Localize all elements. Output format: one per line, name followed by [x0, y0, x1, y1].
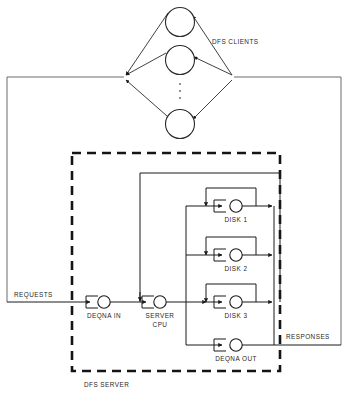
dfs-server-boundary-box	[72, 153, 280, 371]
client-3-to-left-vertex	[126, 80, 167, 116]
client-1-to-left-vertex	[126, 13, 168, 75]
client-ellipsis-icon	[179, 83, 181, 99]
disk-1-label: DISK 1	[225, 216, 248, 223]
dfs-client-node-2[interactable]	[166, 46, 195, 75]
deqna-in-server-circle[interactable]	[98, 296, 110, 308]
client-2-to-left-vertex	[126, 53, 166, 75]
right-vertex-to-client-3	[193, 80, 232, 119]
dfs-server-label: DFS SERVER	[84, 381, 129, 388]
dfs-client-node-3[interactable]	[166, 110, 195, 139]
service-center-server-cpu[interactable]: SERVER CPU	[142, 296, 174, 328]
server-cpu-server-circle[interactable]	[154, 296, 166, 308]
dfs-server-queueing-network-diagram: DFS CLIENTS DFS SERVER REQUESTS DEQNA IN	[0, 0, 349, 405]
service-center-disk-3[interactable]: DISK 3	[206, 284, 272, 319]
server-cpu-label-line2: CPU	[153, 321, 168, 328]
service-center-deqna-in[interactable]: DEQNA IN	[86, 296, 121, 320]
server-cpu-label-line1: SERVER	[146, 312, 175, 319]
dfs-clients-label: DFS CLIENTS	[212, 38, 259, 45]
requests-return-path	[7, 77, 124, 302]
disk-2-server-circle[interactable]	[230, 249, 242, 261]
requests-input-line: REQUESTS	[7, 291, 90, 302]
disk-2-label: DISK 2	[225, 265, 248, 272]
service-center-disk-1[interactable]: DISK 1	[206, 188, 272, 223]
dfs-client-node-1[interactable]	[166, 8, 195, 37]
deqna-out-server-circle[interactable]	[230, 339, 242, 351]
diagram-canvas: DFS CLIENTS DFS SERVER REQUESTS DEQNA IN	[0, 0, 349, 405]
responses-return-path	[234, 77, 341, 345]
requests-label: REQUESTS	[14, 291, 53, 299]
deqna-out-feed	[186, 302, 206, 345]
deqna-in-label: DEQNA IN	[87, 312, 121, 320]
disk-bus-left-riser	[186, 206, 206, 302]
disk-1-server-circle[interactable]	[230, 200, 242, 212]
service-center-disk-2[interactable]: DISK 2	[186, 237, 272, 272]
deqna-out-label: DEQNA OUT	[215, 355, 257, 363]
disk-3-label: DISK 3	[225, 312, 248, 319]
disk-3-server-circle[interactable]	[230, 296, 242, 308]
responses-label: RESPONSES	[286, 333, 330, 340]
dfs-clients-group: DFS CLIENTS	[126, 8, 259, 139]
